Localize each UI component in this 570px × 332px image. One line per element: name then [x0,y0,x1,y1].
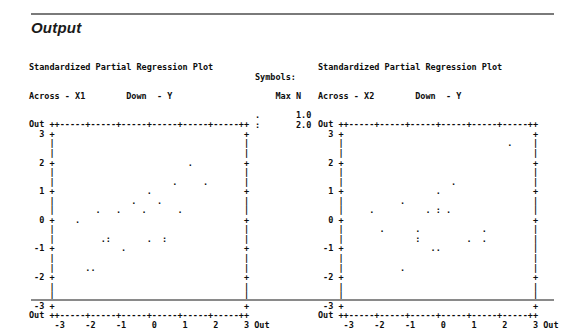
regression-plot-x2: Standardized Partial Regression Plot Acr… [318,44,559,332]
section-bottom-divider [31,299,554,301]
symbols-legend: Symbols: Max N . 1.0 : 2.0 [255,73,311,130]
plot-title-x2: Standardized Partial Regression Plot [318,63,559,73]
page-title: Output [31,19,81,36]
section-top-divider [31,13,554,15]
plot-title-x1: Standardized Partial Regression Plot [29,63,270,73]
plot-subhead-x2: Across - X2 Down - Y [318,92,559,102]
regression-plot-x1: Standardized Partial Regression Plot Acr… [29,44,270,332]
plot-subhead-x1: Across - X1 Down - Y [29,92,270,102]
